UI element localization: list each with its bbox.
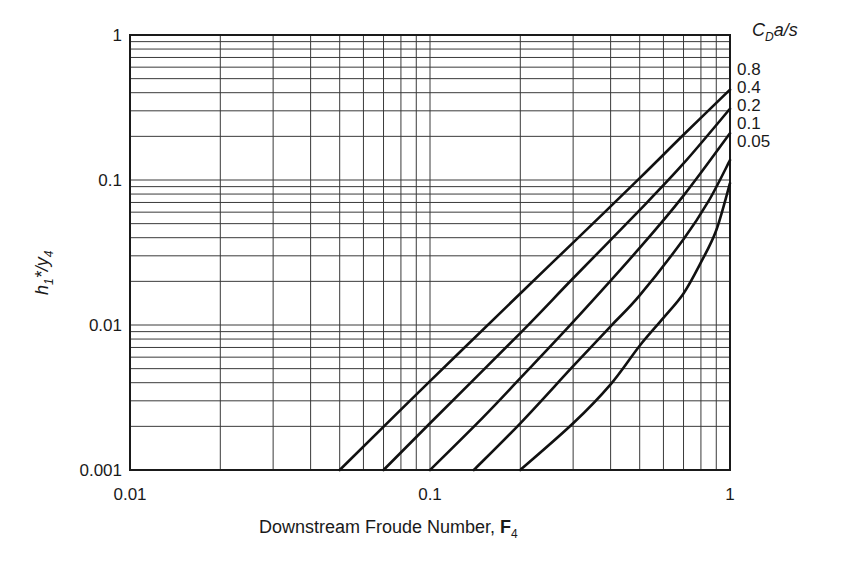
legend-value-0.1: 0.1 xyxy=(737,114,761,133)
x-tick-label: 1 xyxy=(725,485,734,504)
chart-plot: 0.0010.010.110.010.11 0.80.40.20.10.05 xyxy=(0,0,842,567)
legend-value-0.05: 0.05 xyxy=(737,132,770,151)
curve-cda-s-0.2 xyxy=(430,133,730,470)
grid-lines xyxy=(130,35,730,470)
curve-cda-s-0.8 xyxy=(340,90,730,470)
legend-value-0.2: 0.2 xyxy=(737,96,761,115)
y-tick-label: 0.1 xyxy=(98,171,122,190)
y-tick-label: 1 xyxy=(113,26,122,45)
tick-labels: 0.0010.010.110.010.11 xyxy=(79,26,734,504)
y-tick-label: 0.01 xyxy=(89,316,122,335)
legend-value-0.4: 0.4 xyxy=(737,78,761,97)
legend-title: CDa/s xyxy=(752,20,798,44)
data-curves xyxy=(340,90,730,470)
curve-cda-s-0.4 xyxy=(384,109,730,470)
y-tick-label: 0.001 xyxy=(79,461,122,480)
y-axis-label: h1*/y4 xyxy=(32,251,56,295)
x-tick-label: 0.01 xyxy=(113,485,146,504)
legend-value-0.8: 0.8 xyxy=(737,60,761,79)
curve-cda-s-0.1 xyxy=(474,160,730,470)
x-tick-label: 0.1 xyxy=(418,485,442,504)
legend-values: 0.80.40.20.10.05 xyxy=(737,60,770,151)
x-axis-label: Downstream Froude Number, F4 xyxy=(259,517,518,541)
